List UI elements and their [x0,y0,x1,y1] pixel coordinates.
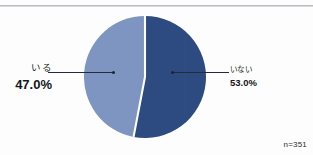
leader-anchor-inai [171,71,174,74]
pie-chart-figure: いる 47.0% いない 53.0% n=351 [0,0,313,155]
leader-line-inai [172,72,229,73]
leader-anchor-iru [112,71,115,74]
slice-label-inai-name: いない [230,64,290,75]
pie-graphic [84,16,206,138]
sample-size-note: n=351 [284,140,307,149]
pie-svg [84,16,206,138]
slice-label-iru-name: いる [6,62,52,74]
slice-label-inai: いない 53.0% [230,64,290,89]
pie-slice-iru[interactable] [84,16,145,137]
top-divider-line-shadow [0,6,313,7]
slice-label-iru: いる 47.0% [6,62,52,93]
slice-label-inai-value: 53.0% [230,75,290,89]
leader-line-iru [48,72,114,73]
slice-label-iru-value: 47.0% [6,74,52,93]
